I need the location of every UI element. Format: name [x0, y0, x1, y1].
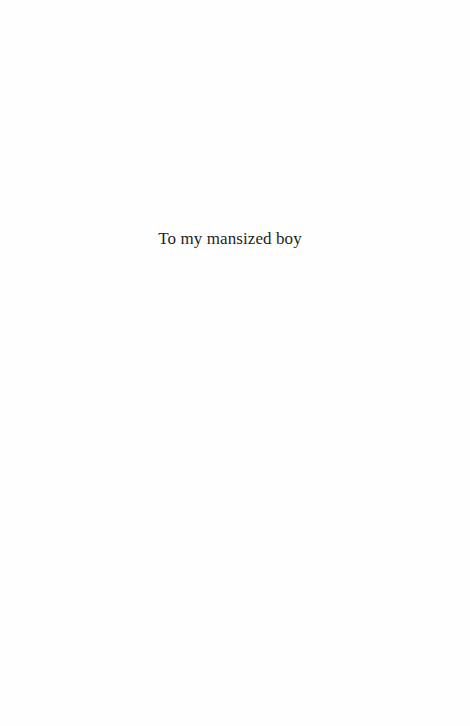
- book-page: ·· To my mansized boy: [0, 0, 470, 726]
- dedication-text: To my mansized boy: [0, 228, 460, 250]
- bleed-through-mark: ··: [332, 78, 338, 88]
